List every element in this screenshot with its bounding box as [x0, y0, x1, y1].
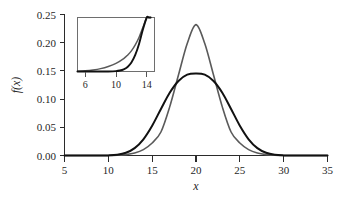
inset-x-axis-tick-labels: 6 10 14	[83, 79, 152, 90]
y-tick-label-4: 0.20	[37, 37, 57, 49]
x-tick-label-0: 5	[62, 164, 68, 176]
x-tick-label-5: 30	[278, 164, 290, 176]
x-tick-label-6: 35	[322, 164, 334, 176]
y-axis-ticks	[60, 15, 65, 156]
figure-container: 0.25 0.20 0.15 0.10 0.05 0.00 5 10 15 20…	[0, 0, 344, 197]
x-tick-label-1: 10	[103, 164, 115, 176]
y-axis-title: f(x)	[9, 77, 23, 94]
x-tick-label-4: 25	[234, 164, 246, 176]
inset-x-tick-label-1: 10	[111, 79, 121, 90]
x-axis-tick-labels: 5 10 15 20 25 30 35	[62, 164, 334, 176]
y-tick-label-5: 0.25	[37, 9, 57, 21]
y-tick-label-2: 0.10	[37, 93, 57, 105]
y-tick-label-0: 0.00	[37, 150, 57, 162]
inset-plot: 6 10 14	[78, 17, 155, 90]
y-tick-label-3: 0.15	[37, 65, 57, 77]
y-tick-label-1: 0.05	[37, 121, 57, 133]
x-axis-title: x	[192, 179, 199, 193]
y-axis-tick-labels: 0.25 0.20 0.15 0.10 0.05 0.00	[37, 9, 57, 162]
density-plot-chart: 0.25 0.20 0.15 0.10 0.05 0.00 5 10 15 20…	[0, 0, 344, 197]
x-tick-label-3: 20	[191, 164, 203, 176]
curve-broad-heavy-tailed-density	[65, 73, 328, 155]
inset-x-tick-label-2: 14	[142, 79, 152, 90]
x-tick-label-2: 15	[147, 164, 159, 176]
inset-x-tick-label-0: 6	[83, 79, 88, 90]
